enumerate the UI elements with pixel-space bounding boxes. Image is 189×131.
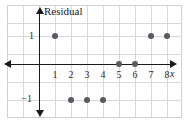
x-tick-label: 7 xyxy=(144,69,158,80)
x-axis-arrow-right-icon xyxy=(170,60,177,68)
data-point xyxy=(116,61,122,67)
data-point xyxy=(148,33,154,39)
data-point xyxy=(52,33,58,39)
y-tick-label-negative-1: −1 xyxy=(12,93,32,104)
gridline-vertical xyxy=(55,5,56,118)
y-axis-arrow-up-icon xyxy=(36,7,44,14)
data-point xyxy=(164,33,170,39)
x-tick-label: 6 xyxy=(128,69,142,80)
gridline-vertical xyxy=(151,5,152,118)
gridline-vertical xyxy=(167,5,168,118)
x-tick-label: 8 xyxy=(160,69,174,80)
x-tick-label: 3 xyxy=(80,69,94,80)
gridline-horizontal xyxy=(7,100,182,101)
y-tick-label-1: 1 xyxy=(14,30,34,41)
y-axis-arrow-down-icon xyxy=(36,110,44,117)
gridline-horizontal xyxy=(7,54,182,55)
x-tick-label: 5 xyxy=(112,69,126,80)
plot-area xyxy=(7,5,182,118)
y-axis-line xyxy=(39,12,40,115)
x-tick-label: 2 xyxy=(64,69,78,80)
y-axis-label: Residual xyxy=(44,5,83,17)
x-tick-label: 1 xyxy=(48,69,62,80)
x-axis-arrow-left-icon xyxy=(4,60,11,68)
data-point xyxy=(68,97,74,103)
residual-plot-chart: Residual x 1 −1 1 2 3 4 5 6 7 8 xyxy=(0,0,189,131)
data-point xyxy=(84,97,90,103)
data-point xyxy=(100,97,106,103)
gridline-horizontal xyxy=(7,117,182,118)
data-point xyxy=(132,61,138,67)
gridline-vertical xyxy=(181,5,182,118)
gridline-horizontal xyxy=(7,5,182,6)
gridline-horizontal xyxy=(7,23,182,24)
x-tick-label: 4 xyxy=(96,69,110,80)
x-axis-line xyxy=(8,64,174,65)
gridline-horizontal xyxy=(7,82,182,83)
